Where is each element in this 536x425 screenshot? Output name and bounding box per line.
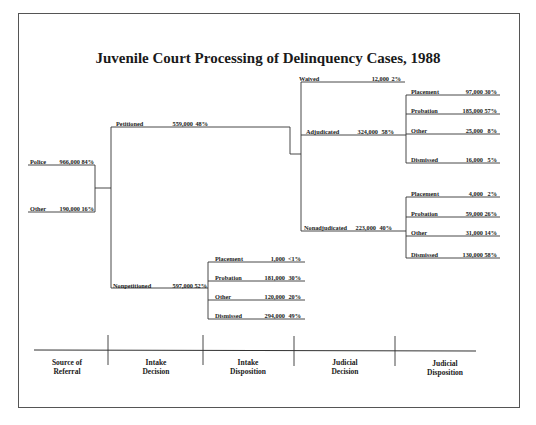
stage-intake-disposition: Intake Disposition bbox=[203, 358, 293, 376]
stage-judicial-disposition: Judicial Disposition bbox=[400, 359, 490, 377]
stage-source-of-referral: Source of Referral bbox=[22, 358, 112, 376]
stage-judicial-decision: Judicial Decision bbox=[300, 358, 390, 376]
stage-axis bbox=[34, 350, 476, 351]
stage-intake-decision: Intake Decision bbox=[111, 358, 201, 376]
